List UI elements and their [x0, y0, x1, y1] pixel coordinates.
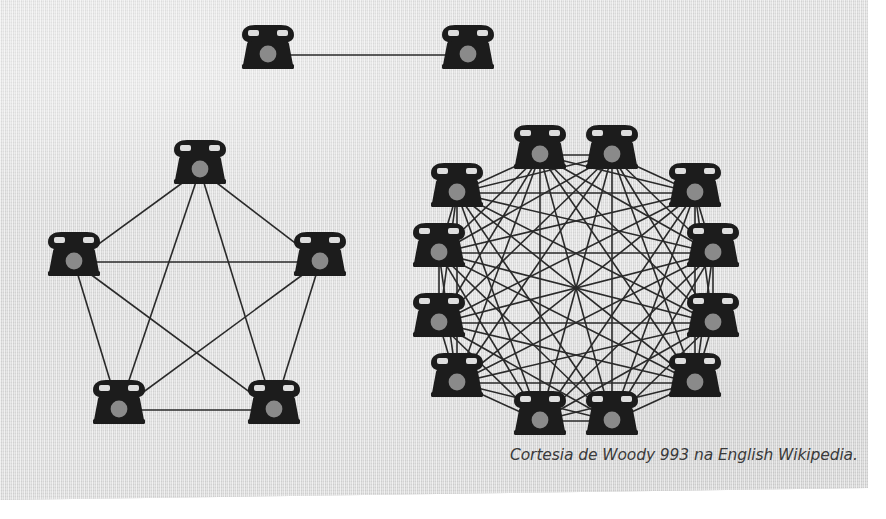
rotary-telephone-icon	[442, 25, 494, 69]
rotary-telephone-icon	[294, 232, 346, 276]
rotary-telephone-icon	[669, 353, 721, 397]
network-edge	[200, 170, 274, 410]
network-edge	[119, 170, 200, 410]
network-edges-layer	[74, 55, 713, 421]
rotary-telephone-icon	[669, 163, 721, 207]
figure-caption: Cortesia de Woody 993 na English Wikiped…	[510, 446, 855, 464]
rotary-telephone-icon	[48, 232, 100, 276]
network-diagram-canvas	[0, 0, 886, 519]
rotary-telephone-icon	[687, 293, 739, 337]
rotary-telephone-icon	[413, 293, 465, 337]
page-margin-right	[868, 0, 886, 519]
rotary-telephone-icon	[586, 125, 638, 169]
rotary-telephone-icon	[514, 125, 566, 169]
network-nodes-layer	[48, 25, 739, 435]
figure-root: Cortesia de Woody 993 na English Wikiped…	[0, 0, 886, 519]
rotary-telephone-icon	[93, 380, 145, 424]
rotary-telephone-icon	[586, 391, 638, 435]
rotary-telephone-icon	[431, 163, 483, 207]
page-margin-bottom	[0, 500, 886, 519]
rotary-telephone-icon	[431, 353, 483, 397]
rotary-telephone-icon	[174, 140, 226, 184]
rotary-telephone-icon	[514, 391, 566, 435]
rotary-telephone-icon	[242, 25, 294, 69]
rotary-telephone-icon	[413, 223, 465, 267]
rotary-telephone-icon	[687, 223, 739, 267]
rotary-telephone-icon	[248, 380, 300, 424]
